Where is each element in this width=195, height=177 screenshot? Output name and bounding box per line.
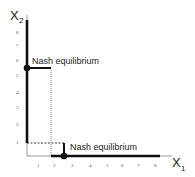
svg-text:7: 7 [16, 43, 19, 48]
svg-text:2: 2 [19, 16, 24, 25]
nash-equilibrium-point-2 [61, 153, 68, 160]
svg-text:8: 8 [16, 30, 19, 35]
svg-text:5: 5 [106, 163, 109, 168]
svg-text:1: 1 [181, 164, 186, 173]
svg-text:3: 3 [71, 163, 74, 168]
svg-text:4: 4 [16, 90, 19, 95]
svg-text:1: 1 [37, 163, 40, 168]
nash-label-1: Nash equilibrium [32, 56, 99, 66]
svg-text:2: 2 [53, 163, 56, 168]
y-axis-label: X 2 [10, 8, 24, 25]
x-axis-label: X 1 [172, 155, 186, 173]
nash-label-2: Nash equilibrium [70, 142, 137, 152]
nash-equilibrium-chart: Nash equilibrium Nash equilibrium 1 2 3 … [0, 0, 195, 177]
svg-text:6: 6 [121, 163, 124, 168]
svg-text:2: 2 [16, 122, 19, 127]
svg-text:6: 6 [16, 58, 19, 63]
svg-text:1: 1 [16, 140, 19, 145]
svg-text:X: X [172, 155, 181, 170]
x-tick-labels: 1 2 3 4 5 6 7 8 [37, 163, 157, 168]
svg-text:5: 5 [16, 73, 19, 78]
svg-text:X: X [10, 8, 19, 23]
svg-text:7: 7 [137, 163, 140, 168]
svg-text:8: 8 [154, 163, 157, 168]
nash-equilibrium-point-1 [24, 65, 31, 72]
svg-text:3: 3 [16, 105, 19, 110]
y-tick-labels: 1 2 3 4 5 6 7 8 [16, 30, 19, 145]
svg-text:4: 4 [89, 163, 92, 168]
